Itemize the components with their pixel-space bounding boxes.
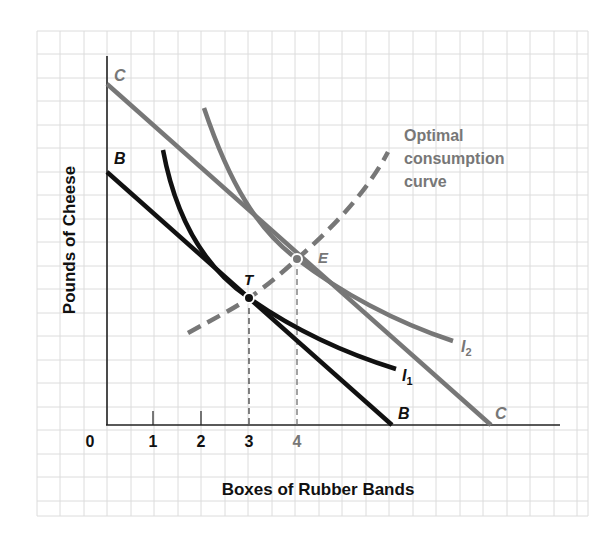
y-axis-label: Pounds of Cheese — [60, 166, 79, 314]
chart: C B T E B C I1 I2 Optimal consumption cu… — [0, 0, 607, 546]
point-t — [244, 293, 254, 303]
label-i1: I1 — [402, 367, 413, 387]
label-b-bottom: B — [398, 405, 410, 422]
svg-text:0: 0 — [86, 433, 95, 450]
point-e — [292, 254, 302, 264]
label-b-top: B — [114, 150, 126, 167]
grid — [37, 31, 588, 516]
x-axis-label: Boxes of Rubber Bands — [222, 480, 415, 499]
x-ticks — [153, 411, 201, 425]
label-c-bottom: C — [495, 405, 507, 422]
svg-text:4: 4 — [293, 433, 302, 450]
svg-text:1: 1 — [149, 433, 158, 450]
svg-text:curve: curve — [404, 173, 447, 190]
x-tick-labels: 0 1 2 3 4 — [86, 433, 302, 450]
svg-text:3: 3 — [245, 433, 254, 450]
svg-text:Optimal: Optimal — [404, 127, 464, 144]
label-i2: I2 — [461, 338, 472, 358]
optimal-consumption-label: Optimal consumption curve — [404, 127, 504, 190]
label-e: E — [318, 249, 329, 266]
svg-text:2: 2 — [197, 433, 206, 450]
label-t: T — [244, 271, 255, 288]
svg-text:consumption: consumption — [404, 150, 504, 167]
label-c-top: C — [114, 67, 126, 84]
